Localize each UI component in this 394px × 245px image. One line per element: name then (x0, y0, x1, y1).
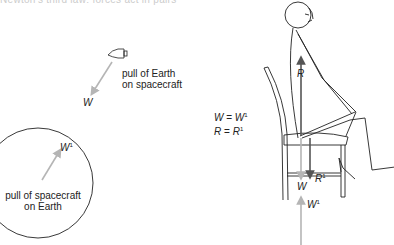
eq2-equals: = (221, 126, 232, 137)
weight-pair-label: W1 (307, 197, 320, 210)
spacecraft-weight-arrow (93, 62, 112, 92)
newtons-third-law-diagram: Newton's third law: forces act in pairs (0, 0, 394, 245)
earth-caption-line1: pull of spacecraft (0, 190, 86, 201)
earth-circle (0, 128, 93, 238)
weight-pair-sup: 1 (316, 199, 319, 205)
eq1-rhs: W (235, 112, 244, 123)
equation-reaction: R = R1 (214, 124, 243, 137)
earth-force-label: W1 (60, 140, 73, 153)
eq2-sup: 1 (240, 126, 243, 132)
reaction-pair-sup: 1 (322, 173, 325, 179)
earth-caption-line2: on Earth (0, 201, 86, 212)
earth-force-sup: 1 (69, 142, 72, 148)
reaction-pair-label: R1 (315, 171, 326, 184)
spacecraft-weight-label: W (83, 97, 92, 108)
eq1-sup: 1 (244, 112, 247, 118)
weight-label: W (297, 181, 306, 192)
spacecraft-caption-line2: on spacecraft (122, 79, 182, 90)
chair-icon (264, 67, 355, 200)
reaction-label: R (297, 68, 304, 79)
eq1-equals: = (223, 112, 234, 123)
earth-caption: pull of spacecraft on Earth (0, 190, 86, 212)
spacecraft-icon (108, 49, 127, 58)
earth-weight-pair-arrow (42, 152, 59, 180)
spacecraft-caption: pull of Earth on spacecraft (122, 68, 182, 90)
eq2-rhs: R (233, 126, 240, 137)
spacecraft-caption-line1: pull of Earth (122, 68, 182, 79)
equation-weight: W = W1 (214, 110, 248, 123)
